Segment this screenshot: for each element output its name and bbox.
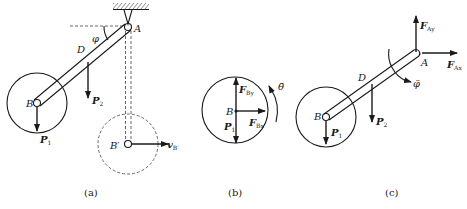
label-theta-ddot: θ̈ [278, 81, 284, 92]
rod-ab [34, 24, 131, 106]
label-b: B [313, 111, 321, 122]
mechanics-figure: A B D φ P2 P1 B′ vB′ (a) FBy FBx B P1 θ̈… [0, 0, 467, 209]
label-b: B [25, 98, 33, 109]
angular-accel-arc [271, 89, 277, 122]
label-b-prime: B′ [109, 140, 120, 151]
caption-c: (c) [385, 187, 399, 198]
label-p1: P1 [39, 134, 51, 146]
label-b: B [225, 106, 233, 117]
panel-b: FBy FBx B P1 θ̈ (b) [202, 77, 284, 198]
label-p2: P2 [375, 116, 388, 128]
label-d: D [76, 44, 85, 55]
fixed-support-icon [113, 3, 149, 24]
panel-a: A B D φ P2 P1 B′ vB′ (a) [7, 3, 179, 198]
label-a: A [133, 23, 141, 34]
label-fby: FBy [238, 84, 255, 97]
pin-b [323, 114, 330, 121]
label-p2: P2 [91, 95, 104, 107]
label-a: A [420, 57, 428, 68]
label-fbx: FBx [248, 117, 265, 129]
label-velocity: vB′ [167, 139, 179, 151]
label-phi-ddot: φ̈ [413, 78, 420, 89]
label-fay: FAy [419, 20, 435, 33]
panel-c: FAy FAx A D φ̈ B P2 P1 (c) [296, 16, 462, 198]
pin-b-prime [125, 141, 132, 148]
caption-b: (b) [228, 187, 242, 198]
label-p1: P1 [223, 121, 235, 133]
label-p1: P1 [330, 127, 342, 139]
label-fax: FAx [446, 59, 462, 71]
pin-b [34, 100, 41, 107]
caption-a: (a) [84, 187, 98, 198]
label-phi: φ [92, 33, 99, 44]
angle-arc [104, 26, 108, 40]
label-d: D [357, 72, 366, 83]
